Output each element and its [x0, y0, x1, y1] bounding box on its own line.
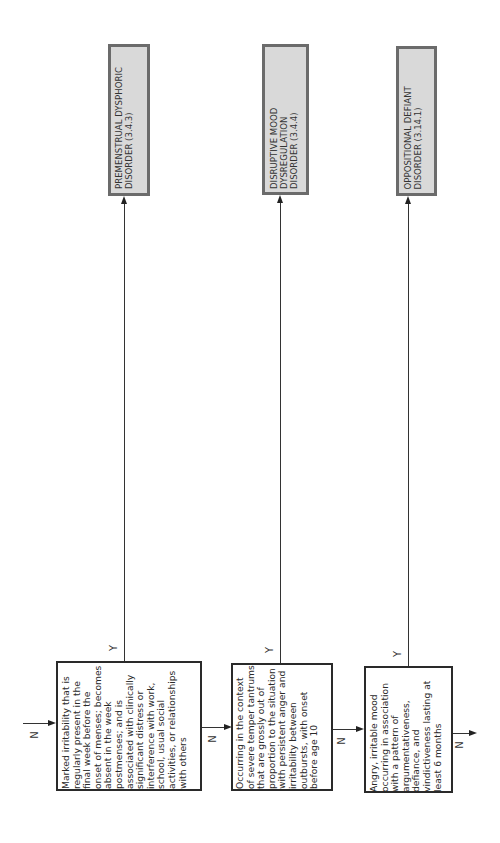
diagnosis-box-pmdd: PREMENSTRUAL DYSPHORIC DISORDER (3.4.3): [108, 44, 150, 196]
criterion-box-dmdd: Occurring in the context of severe tempe…: [231, 663, 333, 791]
yes-arrowhead-odd-icon: [405, 196, 411, 204]
criterion-text-pmdd: Marked irritability that is regularly pr…: [59, 663, 199, 789]
yes-label-odd: Y: [392, 648, 404, 660]
no-path-3: [453, 733, 470, 734]
no-arrowhead-3-icon: [469, 730, 477, 736]
diagnosis-text-dmdd: DISRUPTIVE MOOD DYSREGULATION DISORDER (…: [266, 48, 307, 193]
yes-label-pmdd: Y: [108, 642, 120, 654]
criterion-box-pmdd: Marked irritability that is regularly pr…: [56, 661, 202, 791]
no-label-2: N: [336, 735, 348, 747]
criterion-text-odd: Angry, irritable mood occurring in assoc…: [367, 669, 452, 792]
no-label-3: N: [454, 739, 466, 751]
yes-label-dmdd: Y: [264, 644, 276, 656]
diagnosis-text-odd: OPPOSITIONAL DEFIANT DISORDER (3.14.1): [399, 50, 434, 194]
yes-path-dmdd: [280, 202, 281, 663]
yes-path-odd: [408, 203, 409, 666]
no-arrowhead-2-icon: [356, 726, 364, 732]
diagnosis-box-dmdd: DISRUPTIVE MOOD DYSREGULATION DISORDER (…: [262, 44, 309, 195]
entry-no-label: N: [29, 729, 41, 741]
yes-arrowhead-dmdd-icon: [277, 195, 283, 203]
yes-arrowhead-pmdd-icon: [121, 196, 127, 204]
no-label-1: N: [207, 733, 219, 745]
diagnosis-text-pmdd: PREMENSTRUAL DYSPHORIC DISORDER (3.4.3): [111, 47, 147, 193]
no-path-2: [333, 729, 357, 730]
yes-path-pmdd: [124, 203, 125, 661]
criterion-text-dmdd: Occurring in the context of severe tempe…: [233, 665, 331, 789]
entry-arrow-line: [23, 723, 49, 724]
entry-arrowhead-icon: [48, 720, 56, 726]
criterion-box-odd: Angry, irritable mood occurring in assoc…: [364, 666, 453, 793]
diagnosis-box-odd: OPPOSITIONAL DEFIANT DISORDER (3.14.1): [396, 46, 437, 196]
no-path-1: [202, 727, 225, 728]
